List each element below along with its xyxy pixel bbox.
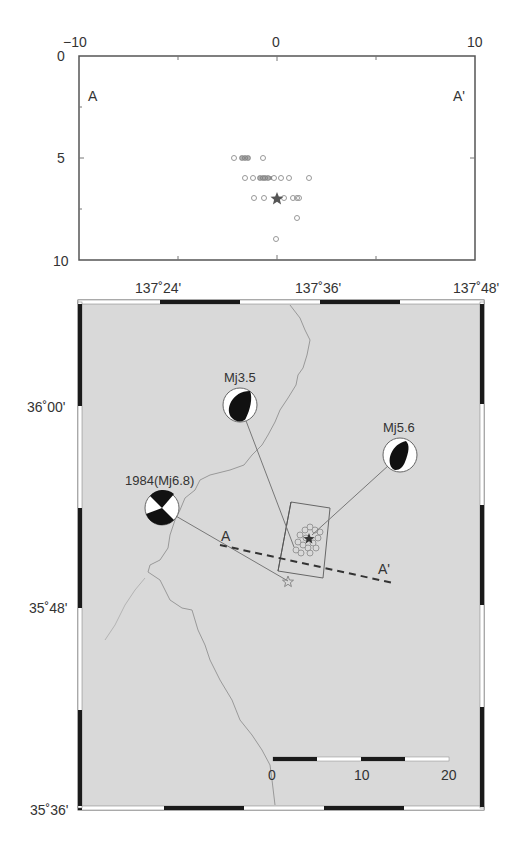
scale-tick-label: 10 bbox=[354, 767, 370, 783]
lat-tick-label: 36˚00' bbox=[27, 399, 65, 415]
scale-tick-label: 20 bbox=[441, 767, 457, 783]
map-canvas bbox=[0, 0, 527, 842]
lon-tick-label: 137˚48' bbox=[453, 280, 499, 296]
mechanism-label: 1984(Mj6.8) bbox=[125, 473, 194, 488]
focal-mechanism-mj56-icon bbox=[383, 438, 417, 472]
focal-mechanism-1984-icon bbox=[145, 490, 179, 525]
profile-label-a: A bbox=[221, 528, 230, 544]
mechanism-label: Mj5.6 bbox=[383, 420, 415, 435]
mechanism-label: Mj3.5 bbox=[224, 370, 256, 385]
focal-mechanism-mj35-icon bbox=[223, 388, 257, 422]
lat-tick-label: 35˚48' bbox=[29, 600, 67, 616]
lon-tick-label: 137˚24' bbox=[135, 280, 181, 296]
lat-tick-label: 35˚36' bbox=[30, 802, 68, 818]
profile-label-a-prime: A' bbox=[378, 561, 390, 577]
lon-tick-label: 137˚36' bbox=[295, 280, 341, 296]
scale-tick-label: 0 bbox=[268, 767, 276, 783]
scale-bar bbox=[273, 757, 449, 761]
